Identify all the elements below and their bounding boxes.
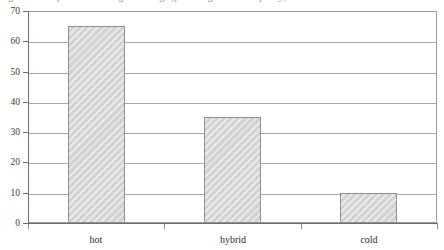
x-axis-label-hot: hot [51,234,141,246]
bar-hot [68,26,125,223]
x-axis-tick [164,224,165,229]
y-axis-label: 10 [0,188,20,198]
bar-chart-figure: Figure 4. Comparison of storage tier usa… [0,0,444,250]
x-axis-tick [28,224,29,229]
y-axis-label: 50 [0,67,20,77]
y-axis-label: 0 [0,218,20,228]
y-axis-label: 30 [0,127,20,137]
y-axis-label: 70 [0,6,20,16]
clipped-caption-text: Figure 4. Comparison of storage tier usa… [0,0,444,3]
y-axis-label: 60 [0,36,20,46]
x-axis-label-cold: cold [324,234,414,246]
x-axis-line [28,223,438,224]
y-axis-tick [23,72,29,73]
y-axis-tick [23,41,29,42]
y-axis-tick [23,132,29,133]
y-axis-tick [23,11,29,12]
bar-hybrid [204,117,261,223]
x-axis-tick [437,224,438,229]
y-axis-tick [23,193,29,194]
y-axis-tick [23,162,29,163]
x-axis-label-hybrid: hybrid [188,234,278,246]
x-axis-tick [301,224,302,229]
y-axis-tick [23,102,29,103]
y-axis-label: 20 [0,157,20,167]
y-axis-label: 40 [0,97,20,107]
bar-cold [340,193,397,223]
